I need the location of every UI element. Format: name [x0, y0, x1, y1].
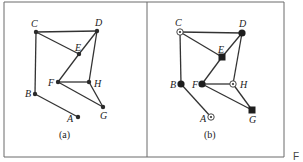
node-A-ring: [208, 114, 214, 120]
node-F-dot: [56, 80, 60, 84]
node-G-dot: [101, 105, 105, 109]
node-G-filled-square: [249, 107, 256, 114]
panel-b: ABCDEFGH (b): [147, 2, 284, 157]
panel-b-caption: (b): [204, 129, 216, 141]
node-label-C: C: [31, 18, 38, 29]
edge-D-H: [233, 33, 242, 84]
node-ring-center: [179, 31, 181, 33]
node-F-filled-circle: [198, 80, 205, 87]
node-label-C: C: [175, 17, 182, 28]
node-C-ring: [177, 29, 183, 35]
node-A-dot: [76, 115, 80, 119]
panel-b-edges: [180, 32, 252, 117]
node-B-filled-circle: [177, 80, 184, 87]
node-C-dot: [34, 30, 38, 34]
edge-C-D: [36, 31, 97, 32]
graph-figure: ABCDEFGH (a) ABCDEFGH (b) F: [0, 0, 303, 162]
node-D-filled-circle: [238, 29, 245, 36]
node-label-H: H: [239, 79, 248, 90]
node-label-B: B: [25, 88, 31, 99]
node-label-B: B: [170, 79, 176, 90]
edge-C-E: [36, 32, 79, 54]
node-ring-center: [210, 116, 212, 118]
node-label-E: E: [74, 42, 81, 53]
panel-b-nodes: [177, 29, 256, 120]
node-label-A: A: [199, 113, 207, 124]
node-B-dot: [33, 92, 37, 96]
node-H-dot: [87, 80, 91, 84]
node-label-G: G: [100, 110, 107, 121]
panel-a-frame: [4, 2, 147, 157]
node-ring-center: [232, 83, 234, 85]
node-label-F: F: [47, 77, 55, 88]
node-H-ring: [230, 81, 236, 87]
edge-C-E: [180, 32, 222, 57]
node-label-G: G: [249, 114, 256, 125]
edge-C-D: [180, 32, 242, 33]
edge-C-B: [180, 32, 181, 84]
panel-a: ABCDEFGH (a): [4, 2, 147, 157]
node-D-dot: [95, 29, 99, 33]
edge-C-B: [35, 32, 36, 94]
node-label-E: E: [217, 44, 224, 55]
node-label-F: F: [191, 79, 199, 90]
node-label-A: A: [66, 113, 74, 124]
panel-a-caption: (a): [59, 129, 70, 141]
node-label-H: H: [93, 78, 102, 89]
edge-E-F: [202, 57, 222, 84]
node-label-D: D: [94, 17, 103, 28]
edge-E-F: [58, 54, 79, 82]
caption-fragment: F: [293, 151, 299, 162]
panel-a-nodes: [33, 29, 105, 119]
node-label-D: D: [238, 18, 247, 29]
panel-a-edges: [35, 31, 103, 117]
